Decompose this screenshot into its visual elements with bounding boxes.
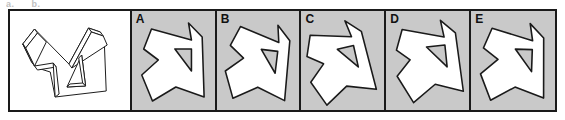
option-letter-c: C: [305, 13, 314, 26]
clipped-label-a: a.: [6, 0, 15, 7]
option-panel-e[interactable]: E: [471, 11, 555, 110]
clipped-label-b: b.: [32, 0, 41, 7]
stimulus-panel: [10, 11, 132, 110]
option-panel-b[interactable]: B: [217, 11, 302, 110]
option-letter-a: A: [136, 13, 145, 26]
option-letter-b: B: [221, 13, 230, 26]
clipped-header-text: a. b.: [0, 0, 565, 7]
three-dimensional-reference-figure: [10, 11, 130, 110]
option-letter-e: E: [475, 13, 483, 26]
option-panel-c[interactable]: C: [301, 11, 386, 110]
option-panel-a[interactable]: A: [132, 11, 217, 110]
option-letter-d: D: [390, 13, 399, 26]
spatial-reasoning-item: a. b.: [0, 0, 565, 120]
option-figure-e: [471, 11, 555, 110]
item-frame: A B C: [8, 9, 557, 112]
option-panel-d[interactable]: D: [386, 11, 471, 110]
